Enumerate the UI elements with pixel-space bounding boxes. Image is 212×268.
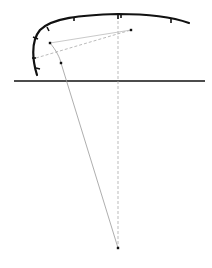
point-a — [49, 42, 51, 44]
diagram-canvas — [0, 0, 212, 268]
tick-mark — [36, 68, 40, 69]
point-b — [130, 29, 132, 31]
tick-mark — [47, 27, 49, 31]
profile-curve — [33, 14, 189, 75]
point-c — [60, 62, 62, 64]
point-d — [117, 247, 119, 249]
points — [49, 29, 132, 249]
long-construction-line — [50, 43, 118, 248]
thin-diagonal-line — [50, 30, 131, 43]
tick-mark — [33, 37, 38, 39]
